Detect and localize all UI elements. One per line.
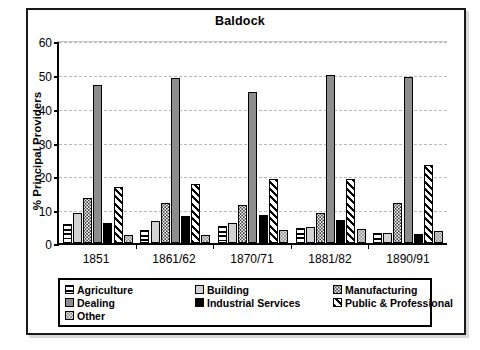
legend-item: Public & Professional (333, 297, 453, 309)
bar (124, 235, 133, 243)
bar (161, 203, 170, 243)
bar (83, 198, 92, 243)
bar (151, 221, 160, 243)
y-tick-label: 30 (39, 138, 52, 152)
y-tick-label: 40 (39, 104, 52, 118)
bar (63, 224, 72, 243)
y-tick-label: 60 (39, 36, 52, 50)
legend-label: Other (77, 310, 105, 322)
bar (93, 85, 102, 243)
legend-label: Public & Professional (345, 297, 453, 309)
x-tick-label: 1881/82 (291, 252, 369, 266)
bar (191, 184, 200, 243)
bar-cluster (214, 42, 292, 243)
legend-swatch-icon (65, 298, 74, 307)
x-tick-mark (368, 243, 369, 249)
bar (357, 229, 366, 243)
legend-item: Agriculture (65, 284, 195, 296)
legend-item: Dealing (65, 297, 195, 309)
bar (326, 75, 335, 243)
bar (404, 77, 413, 243)
bar (306, 227, 315, 243)
y-tick-mark (54, 244, 59, 246)
bar (383, 233, 392, 243)
legend-swatch-icon (333, 285, 342, 294)
bar (201, 235, 210, 243)
legend-label: Dealing (77, 297, 115, 309)
legend-swatch-icon (65, 285, 74, 294)
legend-swatch-icon (333, 298, 342, 307)
bar (103, 223, 112, 243)
bar (269, 179, 278, 243)
bar (279, 230, 288, 243)
bar (218, 226, 227, 243)
y-tick-label: 0 (45, 238, 52, 252)
bar (373, 233, 382, 243)
legend-item: Other (65, 310, 195, 322)
plot-area: 0102030405060 (57, 42, 447, 245)
bar (346, 179, 355, 243)
bar (414, 234, 423, 243)
bar-clusters (59, 42, 447, 243)
bar (114, 187, 123, 243)
legend-swatch-icon (195, 298, 204, 307)
bar (140, 230, 149, 243)
bar (171, 78, 180, 243)
chart-figure: Baldock % Principal Providers 0102030405… (0, 0, 480, 350)
bar (316, 213, 325, 243)
bar-cluster (59, 42, 137, 243)
bar (228, 223, 237, 243)
x-tick-mark (213, 243, 214, 249)
bar (181, 216, 190, 243)
bar-cluster (292, 42, 370, 243)
x-tick-label: 1861/62 (135, 252, 213, 266)
bar (259, 215, 268, 243)
legend-item: Building (195, 284, 333, 296)
legend-label: Agriculture (77, 284, 133, 296)
x-tick-mark (291, 243, 292, 249)
legend-label: Manufacturing (345, 284, 417, 296)
chart-title: Baldock (0, 14, 480, 28)
bar-cluster (137, 42, 215, 243)
legend-label: Industrial Services (207, 297, 300, 309)
bar-cluster (369, 42, 447, 243)
x-tick-label: 1870/71 (213, 252, 291, 266)
x-tick-label: 1851 (57, 252, 135, 266)
legend-swatch-icon (65, 311, 74, 320)
x-tick-label: 1890/91 (369, 252, 447, 266)
legend-label: Building (207, 284, 249, 296)
y-tick-label: 50 (39, 70, 52, 84)
y-tick-label: 20 (39, 171, 52, 185)
bar (296, 228, 305, 243)
bar (238, 205, 247, 243)
bar (393, 203, 402, 243)
x-axis-labels: 18511861/621870/711881/821890/91 (57, 252, 447, 266)
legend-item: Manufacturing (333, 284, 453, 296)
y-tick-label: 10 (39, 205, 52, 219)
bar (424, 165, 433, 243)
bar (434, 231, 443, 243)
legend-swatch-icon (195, 285, 204, 294)
bar (248, 92, 257, 243)
bar (73, 213, 82, 243)
legend-grid: AgricultureBuildingManufacturingDealingI… (65, 283, 425, 322)
chart-legend: AgricultureBuildingManufacturingDealingI… (58, 278, 432, 327)
legend-item: Industrial Services (195, 297, 333, 309)
x-tick-mark (136, 243, 137, 249)
bar (336, 220, 345, 243)
